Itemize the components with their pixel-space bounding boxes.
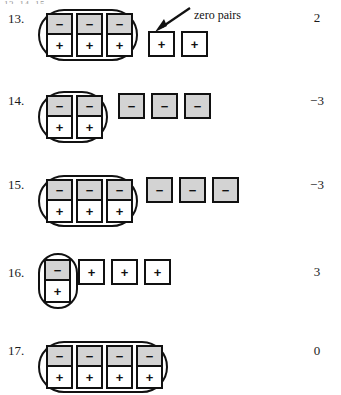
loose-tile[interactable]: −: [179, 177, 206, 203]
pair-tile[interactable]: − +: [76, 179, 103, 223]
plus-half: +: [108, 35, 131, 55]
loose-tile[interactable]: −: [118, 93, 145, 119]
loose-tiles-14: − − −: [118, 93, 211, 119]
minus-half: −: [48, 97, 71, 117]
cut-off-top-line: 13. 14. 15.: [4, 0, 48, 4]
pair-tile[interactable]: − +: [76, 13, 103, 57]
item-number-16: 16.: [8, 266, 24, 279]
loose-tile[interactable]: +: [144, 259, 171, 285]
minus-half: −: [108, 181, 131, 201]
plus-half: +: [48, 201, 71, 221]
plus-half: +: [48, 117, 71, 137]
zero-pairs-label: zero pairs: [194, 9, 241, 21]
pair-tile[interactable]: − +: [106, 179, 133, 223]
item-number-14: 14.: [8, 94, 24, 107]
pair-tile[interactable]: − +: [136, 345, 163, 389]
loose-tile[interactable]: +: [181, 31, 208, 57]
pair-tile[interactable]: − +: [44, 259, 71, 303]
answer-15: −3: [300, 178, 334, 191]
minus-half: −: [48, 15, 71, 35]
minus-half: −: [138, 347, 161, 367]
plus-half: +: [48, 35, 71, 55]
plus-half: +: [78, 367, 101, 387]
plus-half: +: [78, 201, 101, 221]
answer-13: 2: [300, 11, 334, 24]
plus-half: +: [78, 117, 101, 137]
loose-tile[interactable]: −: [184, 93, 211, 119]
loose-tile[interactable]: −: [146, 177, 173, 203]
pair-tile[interactable]: − +: [106, 345, 133, 389]
item-number-17: 17.: [8, 344, 24, 357]
arrow-pointing-to-zero-pairs-icon: [150, 5, 195, 33]
pair-tile[interactable]: − +: [46, 13, 73, 57]
loose-tile[interactable]: −: [151, 93, 178, 119]
minus-half: −: [78, 347, 101, 367]
answer-17: 0: [300, 344, 334, 357]
answer-16: 3: [300, 265, 334, 278]
minus-half: −: [78, 15, 101, 35]
pair-tile[interactable]: − +: [76, 95, 103, 139]
minus-half: −: [46, 261, 69, 281]
grouped-pair-tiles-15: − + − + − +: [46, 179, 133, 223]
minus-half: −: [48, 347, 71, 367]
pair-tile[interactable]: − +: [106, 13, 133, 57]
pair-tile[interactable]: − +: [46, 345, 73, 389]
loose-tile[interactable]: +: [111, 259, 138, 285]
loose-tile[interactable]: +: [78, 259, 105, 285]
plus-half: +: [78, 35, 101, 55]
plus-half: +: [108, 367, 131, 387]
loose-tiles-15: − − −: [146, 177, 239, 203]
plus-half: +: [46, 281, 69, 301]
minus-half: −: [48, 181, 71, 201]
loose-tile[interactable]: −: [212, 177, 239, 203]
pair-tile[interactable]: − +: [46, 179, 73, 223]
minus-half: −: [108, 347, 131, 367]
grouped-pair-tiles-13: − + − + − +: [46, 13, 133, 57]
loose-tiles-16: + + +: [78, 259, 171, 285]
plus-half: +: [138, 367, 161, 387]
grouped-pair-tiles-14: − + − +: [46, 95, 103, 139]
loose-tile[interactable]: +: [148, 31, 175, 57]
minus-half: −: [78, 97, 101, 117]
pair-tile[interactable]: − +: [76, 345, 103, 389]
minus-half: −: [108, 15, 131, 35]
item-number-15: 15.: [8, 178, 24, 191]
loose-tiles-13: + +: [148, 31, 208, 57]
pair-tile[interactable]: − +: [46, 95, 73, 139]
item-number-13: 13.: [8, 12, 24, 25]
plus-half: +: [108, 201, 131, 221]
minus-half: −: [78, 181, 101, 201]
grouped-pair-tiles-17: − + − + − + − +: [46, 345, 163, 389]
answer-14: −3: [300, 94, 334, 107]
plus-half: +: [48, 367, 71, 387]
grouped-pair-tiles-16: − +: [44, 259, 71, 303]
